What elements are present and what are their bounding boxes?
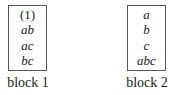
block-2-item-3: c <box>144 39 150 53</box>
block-2-item-4: abc <box>137 54 156 68</box>
block-1-box: (1) ab ac bc <box>8 5 47 71</box>
block-1-item-2: ab <box>21 23 34 37</box>
block-1-label: block 1 <box>0 75 58 91</box>
block-1-item-4: bc <box>21 54 33 68</box>
block-2-item-2: b <box>143 23 150 37</box>
block-2-box: a b c abc <box>127 5 166 71</box>
block-2-label: block 2 <box>117 75 173 91</box>
block-1-item-3: ac <box>21 39 33 53</box>
block-1-item-1: (1) <box>20 8 35 22</box>
block-2-item-1: a <box>143 8 150 22</box>
